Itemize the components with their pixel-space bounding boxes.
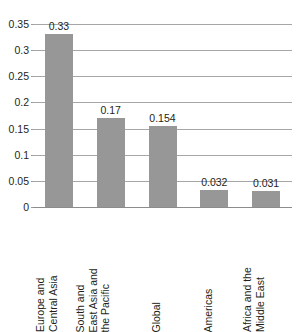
category-label-rotated: Europe andCentral Asia [34,250,59,332]
category-label-line: Americas [202,250,215,332]
bar [200,190,228,207]
gridline [33,207,292,208]
category-label-line: East Asia and [86,250,99,332]
category-label-line: South and [73,250,86,332]
category-label-line: Central Asia [46,250,59,332]
x-axis-category-labels: Europe andCentral AsiaSouth andEast Asia… [33,209,292,291]
x-axis-category-label: Americas [188,209,240,291]
x-axis-category-label: South andEast Asia andthe Pacific [85,209,137,291]
bar [149,126,177,207]
bar-value-label: 0.33 [29,21,89,32]
category-label-rotated: Americas [202,250,215,332]
category-label-line: Middle East [254,250,267,332]
category-label-rotated: Africa and theMiddle East [241,250,266,332]
category-label-line: Global [150,250,163,332]
bar-value-label: 0.031 [236,178,296,189]
category-label-rotated: South andEast Asia andthe Pacific [73,250,111,332]
bar [45,34,73,207]
x-axis-category-label: Global [137,209,189,291]
bar-value-label: 0.154 [133,113,193,124]
plot-area: 0.330.170.1540.0320.031 [33,24,292,207]
category-label-line: the Pacific [98,250,111,332]
x-axis-category-label: Africa and theMiddle East [240,209,292,291]
bar [97,118,125,207]
bar [252,191,280,207]
category-label-rotated: Global [150,250,163,332]
category-label-line: Africa and the [241,250,254,332]
category-label-line: Europe and [34,250,47,332]
